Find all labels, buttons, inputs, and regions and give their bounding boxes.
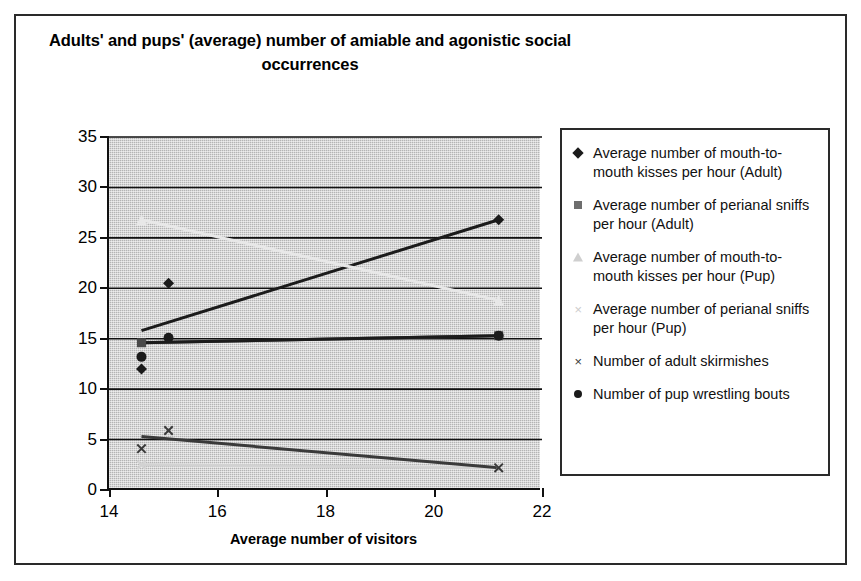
chart-title: Adults' and pups' (average) number of am… (40, 28, 580, 76)
x-tick-label: 14 (100, 502, 119, 522)
y-tick-mark (100, 338, 109, 340)
x-tick-mark (217, 488, 219, 497)
y-tick-label: 30 (78, 177, 97, 197)
x-tick-label: 16 (208, 502, 227, 522)
x-tick-mark (326, 488, 328, 497)
legend-item[interactable]: ×Average number of perianal sniffs per h… (570, 300, 822, 338)
x-tick-label: 18 (316, 502, 335, 522)
x-marker-icon: × (570, 352, 586, 371)
data-point-square (137, 338, 146, 347)
series-line (141, 220, 498, 331)
circle-marker-icon (570, 385, 586, 404)
square-marker-icon (570, 196, 586, 215)
legend-item-label: Number of adult skirmishes (593, 352, 769, 371)
data-point-circle (164, 333, 174, 343)
legend-item[interactable]: Average number of mouth-to- mouth kisses… (570, 144, 822, 182)
legend-item-label: Average number of perianal sniffs per ho… (593, 196, 809, 234)
data-point-diamond (493, 214, 504, 225)
legend-item[interactable]: Average number of perianal sniffs per ho… (570, 196, 822, 234)
legend-item[interactable]: ×Number of adult skirmishes (570, 352, 822, 371)
plot-svg (109, 137, 542, 490)
x-tick-mark (542, 488, 544, 497)
y-tick-mark (100, 489, 109, 491)
plot-area: 051015202530351416182022 (107, 137, 540, 490)
y-tick-mark (100, 237, 109, 239)
triangle-marker-icon (570, 248, 586, 267)
data-point-circle (136, 352, 146, 362)
y-tick-label: 20 (78, 278, 97, 298)
diamond-marker-icon (570, 144, 586, 163)
data-point-diamond (136, 363, 147, 374)
y-tick-mark (100, 136, 109, 138)
series-line (141, 465, 498, 468)
legend-item[interactable]: Average number of mouth-to- mouth kisses… (570, 248, 822, 286)
x-tick-label: 20 (424, 502, 443, 522)
legend-item-label: Number of pup wrestling bouts (593, 385, 790, 404)
legend-item-label: Average number of perianal sniffs per ho… (593, 300, 809, 338)
y-tick-mark (100, 388, 109, 390)
x-tick-label: 22 (533, 502, 552, 522)
y-tick-label: 5 (88, 430, 97, 450)
y-tick-label: 15 (78, 329, 97, 349)
x-axis-title: Average number of visitors (107, 531, 540, 547)
legend-item-label: Average number of mouth-to- mouth kisses… (593, 144, 782, 182)
y-tick-label: 0 (88, 480, 97, 500)
y-tick-mark (100, 287, 109, 289)
data-point-x (164, 426, 172, 434)
data-point-x (137, 444, 145, 452)
data-point-diamond (163, 278, 174, 289)
legend-item-label: Average number of mouth-to- mouth kisses… (593, 248, 782, 286)
y-tick-mark (100, 186, 109, 188)
legend-item[interactable]: Number of pup wrestling bouts (570, 385, 822, 404)
chart-legend: Average number of mouth-to- mouth kisses… (560, 128, 830, 476)
data-point-circle (494, 331, 504, 341)
series-line (141, 437, 498, 468)
chart-figure: Adults' and pups' (average) number of am… (0, 0, 861, 581)
y-tick-label: 35 (78, 127, 97, 147)
y-tick-label: 25 (78, 228, 97, 248)
x-tick-mark (434, 488, 436, 497)
y-tick-label: 10 (78, 379, 97, 399)
y-tick-mark (100, 439, 109, 441)
x-marker-light-icon: × (570, 300, 586, 319)
x-tick-mark (109, 488, 111, 497)
